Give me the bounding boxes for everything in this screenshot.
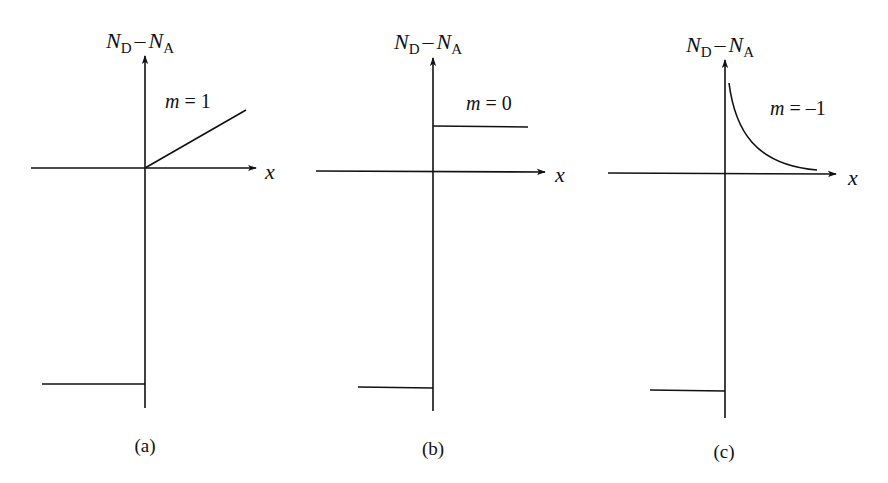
acceptor-level bbox=[358, 387, 433, 388]
x-axis-label: x bbox=[554, 162, 565, 187]
profile-line-m0 bbox=[433, 126, 528, 127]
y-axis-label: ND–NA bbox=[393, 29, 462, 57]
doping-profile-figure: ND–NA x m = 1 (a) ND–NA x m = 0 (b) ND–N… bbox=[0, 0, 888, 483]
panel-c: ND–NA x m = –1 (c) bbox=[608, 32, 858, 463]
panel-a: ND–NA x m = 1 (a) bbox=[31, 28, 275, 457]
x-axis bbox=[608, 173, 836, 174]
panel-b: ND–NA x m = 0 (b) bbox=[316, 29, 565, 460]
x-axis-label: x bbox=[264, 159, 275, 184]
acceptor-level bbox=[650, 390, 725, 391]
profile-line-m1 bbox=[145, 110, 246, 168]
profile-label: m = 0 bbox=[466, 92, 512, 114]
x-axis bbox=[316, 171, 545, 172]
profile-label: m = 1 bbox=[165, 90, 211, 112]
profile-label: m = –1 bbox=[770, 97, 826, 119]
y-axis-label: ND–NA bbox=[685, 32, 754, 60]
panel-caption: (a) bbox=[134, 435, 155, 457]
panel-caption: (b) bbox=[422, 438, 444, 460]
y-axis-label: ND–NA bbox=[105, 28, 174, 56]
x-axis-label: x bbox=[847, 165, 858, 190]
panel-caption: (c) bbox=[713, 441, 734, 463]
